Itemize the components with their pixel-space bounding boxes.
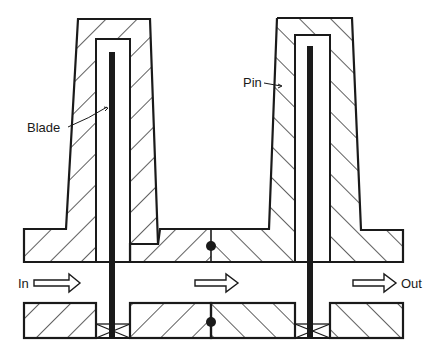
flow-arrow-middle	[195, 274, 238, 292]
pin-joint-dot-top	[206, 241, 216, 251]
blade-right	[307, 46, 313, 338]
pin-joint-dot-bottom	[206, 317, 216, 327]
label-out: Out	[401, 276, 422, 291]
flow-arrow-out	[353, 274, 396, 292]
right-housing	[130, 18, 403, 262]
flow-arrow-in	[34, 274, 80, 292]
label-blade: Blade	[27, 120, 60, 135]
cross-section-diagram: In Out Blade Pin	[0, 0, 436, 362]
label-pin: Pin	[243, 75, 262, 90]
label-in: In	[18, 276, 29, 291]
blade-left	[109, 52, 115, 338]
left-housing	[24, 19, 158, 262]
